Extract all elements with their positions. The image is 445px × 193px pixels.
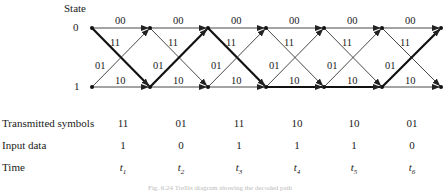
edge-label-00: 00 [115, 15, 126, 26]
edge-label-00: 00 [173, 15, 184, 26]
input-t1: 1 [120, 139, 126, 151]
node-state-1-t0 [90, 85, 94, 89]
figure-caption: Fig. 6.24 Trellis diagram showing the de… [148, 184, 292, 192]
input-t4: 1 [294, 139, 300, 151]
edge-label-10: 10 [115, 75, 126, 86]
node-state-1-t3 [264, 85, 268, 89]
input-t2: 0 [178, 139, 184, 151]
input-t3: 1 [236, 139, 242, 151]
edge-label-10: 10 [173, 75, 184, 86]
edge-label-01: 01 [95, 60, 106, 71]
edge-label-11: 11 [400, 37, 410, 48]
edge-label-00: 00 [289, 15, 300, 26]
edge-label-11: 11 [110, 37, 120, 48]
time-t3: t3 [236, 161, 243, 176]
time-t2: t2 [178, 161, 185, 176]
edge-label-11: 11 [226, 37, 236, 48]
time-t4: t4 [294, 161, 301, 176]
node-state-1-t5 [380, 85, 384, 89]
input-t5: 1 [351, 139, 357, 151]
node-state-0-t0 [90, 26, 94, 30]
symbol-t5: 10 [349, 117, 360, 129]
node-state-0-t5 [380, 26, 384, 30]
time-t6: t6 [409, 161, 416, 176]
row-label-transmitted-symbols: Transmitted symbols [2, 117, 94, 129]
node-state-0-t4 [322, 26, 326, 30]
edge-label-00: 00 [231, 15, 242, 26]
edge-label-00: 00 [347, 15, 358, 26]
edge-label-01: 01 [269, 60, 280, 71]
node-state-1-t2 [206, 85, 210, 89]
trellis-figure: { "state_header": "State", "states": ["0… [0, 0, 445, 193]
node-state-1-t4 [322, 85, 326, 89]
trellis-diagram: 0011011000110110001101100011011000110110… [0, 0, 445, 110]
edge-label-10: 10 [289, 75, 300, 86]
node-state-0-t6 [439, 26, 443, 30]
edge-label-10: 10 [347, 75, 358, 86]
state-0-label: 0 [73, 21, 79, 33]
input-t6: 0 [409, 139, 415, 151]
edge-label-11: 11 [342, 37, 352, 48]
edge-label-10: 10 [405, 75, 416, 86]
node-state-0-t3 [264, 26, 268, 30]
edge-label-01: 01 [327, 60, 338, 71]
edge-label-11: 11 [284, 37, 294, 48]
edge-label-10: 10 [231, 75, 242, 86]
row-label-input-data: Input data [2, 139, 46, 151]
row-label-time: Time [2, 161, 25, 173]
symbol-t2: 01 [176, 117, 187, 129]
symbol-t1: 11 [118, 117, 129, 129]
state-1-label: 1 [74, 80, 80, 92]
node-state-0-t2 [206, 26, 210, 30]
edge-label-01: 01 [385, 60, 396, 71]
symbol-t6: 01 [407, 117, 418, 129]
symbol-t3: 11 [234, 117, 245, 129]
symbol-t4: 10 [292, 117, 303, 129]
state-header: State [64, 2, 86, 14]
time-t5: t5 [351, 161, 358, 176]
edge-label-11: 11 [168, 37, 178, 48]
edge-label-01: 01 [153, 60, 164, 71]
node-state-0-t1 [148, 26, 152, 30]
edge-label-00: 00 [405, 15, 416, 26]
time-t1: t1 [120, 161, 127, 176]
edge-label-01: 01 [211, 60, 222, 71]
node-state-1-t6 [439, 85, 443, 89]
node-state-1-t1 [148, 85, 152, 89]
